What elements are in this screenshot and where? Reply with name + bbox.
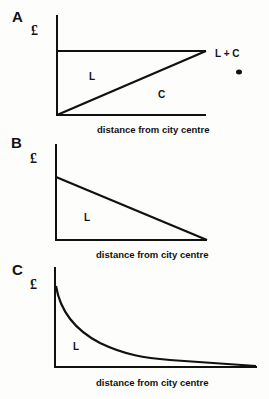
panel-a-y-unit: £ xyxy=(31,23,38,38)
ink-blot xyxy=(236,70,242,75)
panel-c-land-value-curve xyxy=(56,286,256,366)
panel-a-line-label: L + C xyxy=(215,48,240,59)
panel-b: B £ L distance from city centre xyxy=(11,134,208,260)
panel-c: C £ L distance from city centre xyxy=(12,261,257,388)
panel-b-y-unit: £ xyxy=(30,151,37,166)
panel-a-region-cost: C xyxy=(158,89,165,100)
panel-a-region-land: L xyxy=(89,71,95,82)
panel-c-letter: C xyxy=(12,261,23,278)
panel-c-region-land: L xyxy=(73,341,79,352)
panel-a-xlabel: distance from city centre xyxy=(97,124,209,135)
panel-a: A £ L C L + C distance from city centre xyxy=(12,8,242,135)
panel-a-transport-cost-line xyxy=(57,51,206,115)
panel-b-region-land: L xyxy=(84,212,90,223)
panel-b-xlabel: distance from city centre xyxy=(96,249,208,260)
panel-c-xlabel: distance from city centre xyxy=(96,377,208,388)
panel-c-y-unit: £ xyxy=(30,277,37,292)
panel-b-letter: B xyxy=(11,134,22,151)
panel-b-land-value-line xyxy=(56,177,207,240)
panel-a-letter: A xyxy=(12,8,23,25)
bid-rent-diagram: A £ L C L + C distance from city centre … xyxy=(0,0,269,399)
